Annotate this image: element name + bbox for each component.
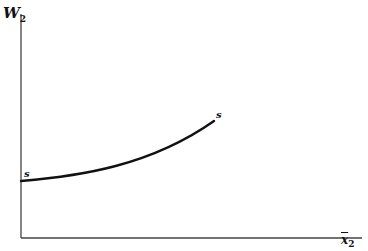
curve-start-label: s — [24, 168, 30, 179]
x-axis-label: x2 — [341, 233, 354, 249]
chart-canvas — [0, 0, 368, 251]
ss-curve — [21, 121, 214, 181]
curve-end-label: s — [216, 109, 222, 120]
y-axis-label: W2 — [3, 4, 26, 24]
